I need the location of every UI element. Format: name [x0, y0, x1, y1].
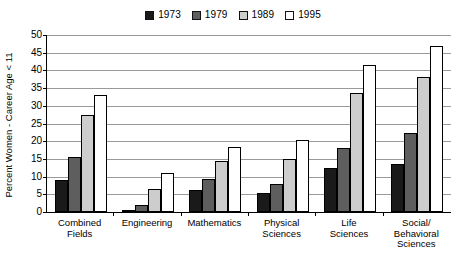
x-axis-category-label: PhysicalSciences — [248, 216, 315, 256]
bar — [228, 147, 241, 212]
y-axis-tick-labels: 05101520253035404550 — [16, 35, 44, 215]
bar-group — [316, 35, 383, 212]
bar — [430, 46, 443, 212]
legend-label: 1979 — [205, 10, 228, 20]
bar — [189, 190, 202, 212]
x-axis-category-label-line: Combined — [46, 218, 113, 229]
y-axis-tick-label: 30 — [31, 101, 42, 111]
chart-legend: 1973197919891995 — [0, 10, 466, 20]
bar — [337, 148, 350, 212]
bar-group — [249, 35, 316, 212]
x-axis-category-label: CombinedFields — [46, 216, 113, 256]
y-axis-tick-mark — [43, 70, 47, 71]
bar — [270, 184, 283, 212]
y-axis-tick-mark — [43, 53, 47, 54]
x-axis-category-label-line: Mathematics — [181, 218, 248, 229]
legend-swatch-icon — [192, 11, 201, 20]
bar — [363, 65, 376, 212]
x-axis-category-label-line: Sciences — [248, 229, 315, 240]
legend-label: 1995 — [298, 10, 321, 20]
bar — [257, 193, 270, 212]
bar — [55, 180, 68, 212]
x-axis-category-label: Social/BehavioralSciences — [383, 216, 450, 256]
x-axis-category-label-line: Sciences — [383, 239, 450, 250]
x-axis-category-label-line: Sciences — [315, 229, 382, 240]
y-axis-tick-label: 40 — [31, 65, 42, 75]
bar-groups — [47, 35, 451, 212]
y-axis-tick-mark — [43, 159, 47, 160]
x-axis-category-label: Mathematics — [181, 216, 248, 256]
bar — [391, 164, 404, 212]
y-axis-tick-mark — [43, 124, 47, 125]
y-axis-tick-mark — [43, 141, 47, 142]
legend-entry: 1995 — [285, 10, 321, 20]
bar — [296, 140, 309, 212]
x-axis-tick-labels: CombinedFieldsEngineeringMathematicsPhys… — [46, 216, 450, 256]
plot-area-wrapper: Percent Women - Career Age < 11 05101520… — [0, 35, 466, 256]
legend-swatch-icon — [239, 11, 248, 20]
bar — [94, 95, 107, 212]
y-axis-tick-mark — [43, 194, 47, 195]
y-axis-tick-mark — [43, 88, 47, 89]
bar — [135, 205, 148, 212]
bar — [324, 168, 337, 212]
bar — [161, 173, 174, 212]
legend-swatch-icon — [285, 11, 294, 20]
bar — [122, 210, 135, 212]
legend-label: 1973 — [158, 10, 181, 20]
bar — [417, 77, 430, 212]
x-axis-category-label-line: Life — [315, 218, 382, 229]
bar-group — [114, 35, 181, 212]
bar — [350, 93, 363, 212]
bar — [202, 179, 215, 212]
y-axis-tick-label: 35 — [31, 83, 42, 93]
bar-group — [47, 35, 114, 212]
y-axis-tick-label: 45 — [31, 48, 42, 58]
y-axis-title: Percent Women - Career Age < 11 — [2, 35, 16, 215]
bar — [283, 159, 296, 212]
bar — [215, 161, 228, 212]
x-axis-category-label-line: Social/ — [383, 218, 450, 229]
x-axis-category-label: Engineering — [113, 216, 180, 256]
bar-group — [182, 35, 249, 212]
y-axis-tick-label: 10 — [31, 172, 42, 182]
legend-label: 1989 — [252, 10, 275, 20]
bar — [68, 157, 81, 212]
y-axis-tick-label: 50 — [31, 30, 42, 40]
bar-group — [384, 35, 451, 212]
y-axis-tick-label: 0 — [36, 207, 42, 217]
y-axis-tick-label: 5 — [36, 189, 42, 199]
bar — [81, 115, 94, 212]
y-axis-tick-label: 25 — [31, 119, 42, 129]
bar-chart: 1973197919891995 Percent Women - Career … — [0, 0, 466, 256]
legend-entry: 1979 — [192, 10, 228, 20]
legend-entry: 1989 — [239, 10, 275, 20]
y-axis-tick-label: 20 — [31, 136, 42, 146]
x-axis-category-label: LifeSciences — [315, 216, 382, 256]
x-axis-category-label-line: Physical — [248, 218, 315, 229]
y-axis-tick-mark — [43, 212, 47, 213]
bar — [404, 133, 417, 212]
y-axis-tick-mark — [43, 35, 47, 36]
y-axis-tick-label: 15 — [31, 154, 42, 164]
y-axis-title-text: Percent Women - Career Age < 11 — [4, 52, 14, 197]
legend-swatch-icon — [145, 11, 154, 20]
x-axis-category-label-line: Engineering — [113, 218, 180, 229]
y-axis-tick-mark — [43, 106, 47, 107]
plot-area — [46, 35, 451, 213]
y-axis-tick-mark — [43, 177, 47, 178]
x-axis-category-label-line: Fields — [46, 229, 113, 240]
legend-entry: 1973 — [145, 10, 181, 20]
bar — [148, 189, 161, 212]
